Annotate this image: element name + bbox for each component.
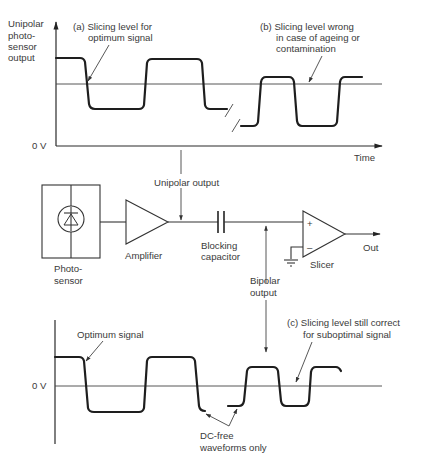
blocking-capacitor-label: Blocking capacitor <box>201 240 241 262</box>
amplifier-label: Amplifier <box>125 250 163 261</box>
out-label: Out <box>363 242 379 253</box>
top-graph: Unipolar photo- sensor output 0 V Time (… <box>8 18 382 163</box>
annotation-a-pointer <box>88 45 109 81</box>
photosensor-slicing-diagram: Unipolar photo- sensor output 0 V Time (… <box>0 0 428 464</box>
optimum-signal-label: Optimum signal <box>77 329 144 340</box>
annotation-b-pointer <box>309 56 322 82</box>
zero-volt-label: 0 V <box>32 140 47 151</box>
annotation-b: (b) Slicing level wrong in case of agein… <box>260 21 362 54</box>
photosensor-label: Photo- sensor <box>54 263 85 286</box>
break-mark-1 <box>225 104 233 117</box>
dc-free-pointer-1 <box>206 414 229 426</box>
time-label: Time <box>354 152 375 163</box>
slicer-label: Slicer <box>310 259 335 270</box>
slicer-plus-sign: + <box>307 218 313 229</box>
annotation-c-pointer <box>296 342 312 382</box>
amplifier-icon <box>126 200 168 244</box>
dc-free-label: DC-free waveforms only <box>199 430 267 453</box>
annotation-a: (a) Slicing level for optimum signal <box>73 21 155 43</box>
bipolar-suboptimal-waveform <box>228 367 341 406</box>
optimum-waveform <box>56 58 227 109</box>
bipolar-optimum-waveform <box>55 357 205 412</box>
dc-free-pointer-2 <box>229 409 237 426</box>
break-mark-2 <box>232 119 240 132</box>
bipolar-output-label: Bipolar output <box>250 275 283 298</box>
unipolar-output-label: Unipolar output <box>154 177 219 188</box>
ground-icon <box>284 260 298 266</box>
bottom-graph: 0 V Optimum signal (c) Slicing level sti… <box>32 317 403 453</box>
slicer-minus-sign: – <box>307 242 313 253</box>
photosensor <box>42 185 100 258</box>
optimum-signal-pointer <box>86 341 103 361</box>
ground-wire <box>291 247 303 259</box>
bottom-zero-volt-label: 0 V <box>32 380 47 391</box>
y-axis-label: Unipolar photo- sensor output <box>8 18 46 63</box>
annotation-c: (c) Slicing level still correct for subo… <box>287 317 403 340</box>
